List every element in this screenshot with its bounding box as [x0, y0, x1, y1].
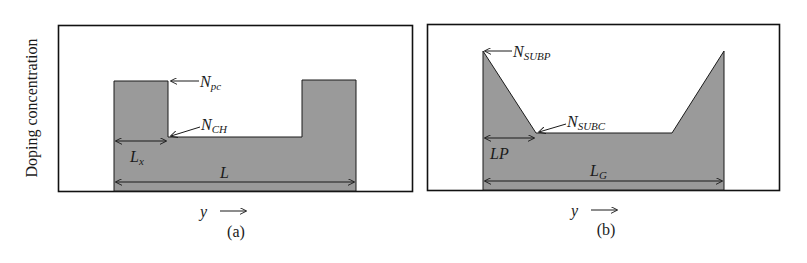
nch-pointer-arrow: [171, 127, 200, 136]
l-label: L: [219, 164, 229, 181]
y-axis-label: Doping concentration: [23, 38, 41, 177]
panel-b-caption: (b): [597, 221, 616, 239]
nsubc-pointer-arrow: [539, 124, 566, 132]
nsubp-label: NSUBP: [512, 43, 551, 62]
nsubc-label: NSUBC: [566, 113, 606, 132]
panel-b-x-label: y: [569, 202, 579, 220]
doping-profile-figure: Doping concentration Npc NCH Lx L y (a): [0, 0, 807, 263]
lp-label: LP: [489, 145, 509, 162]
panel-a-x-label: y: [198, 203, 208, 221]
npc-label: Npc: [199, 73, 221, 92]
panel-b: NSUBP NSUBC LP LG y (b): [428, 25, 780, 240]
panel-a: Npc NCH Lx L y (a): [59, 26, 413, 242]
panel-a-profile: [114, 80, 356, 191]
panel-a-caption: (a): [227, 223, 245, 241]
nch-label: NCH: [200, 116, 228, 135]
